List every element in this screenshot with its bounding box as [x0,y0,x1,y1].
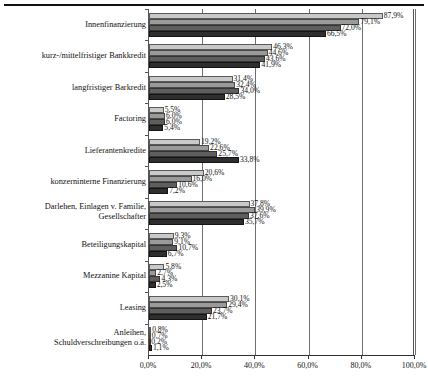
gridline [362,9,363,355]
y-axis-tick [145,261,149,262]
y-axis-tick [145,292,149,293]
y-axis-tick [145,229,149,230]
bar-value-label: 1,1% [153,344,169,352]
x-axis-tick [201,355,202,359]
x-axis-tick [308,355,309,359]
bar [149,314,207,320]
y-axis-tick [145,103,149,104]
bar [149,125,163,131]
bar-value-label: 2,5% [157,281,173,289]
category-label: Darlehen, Einlagen v. Familie, Gesellsch… [45,202,146,222]
x-axis-tick [254,355,255,359]
bar-value-label: 7,2% [169,187,185,195]
bar-value-label: 6,7% [168,250,184,258]
category-label: Leasing [120,303,146,313]
bar [149,62,260,68]
bar-value-label: 33,8% [240,156,260,164]
figure-top-rule [4,4,424,6]
x-axis-tick-label: 60,0% [297,361,318,370]
bar-chart: 0,0%20,0%40,0%60,0%80,0%100,0%Innenfinan… [0,0,428,382]
bar [149,251,167,257]
bar [149,219,244,225]
y-axis-tick [145,72,149,73]
bar [149,94,225,100]
bar [149,31,326,37]
x-axis-line [148,355,414,356]
bar-value-label: 5,4% [164,124,180,132]
bar [149,282,156,288]
bar-value-label: 87,9% [384,12,404,20]
y-axis-tick [145,198,149,199]
x-axis-tick-label: 20,0% [191,361,212,370]
y-axis-tick [145,40,149,41]
x-axis-tick-label: 80,0% [350,361,371,370]
bar-value-label: 21,7% [208,313,228,321]
y-axis-tick [145,166,149,167]
x-axis-tick [148,355,149,359]
category-label: Beteiligungskapital [81,240,146,250]
category-label: Innenfinanzierung [85,20,146,30]
category-label: Factoring [114,114,146,124]
x-axis-tick-label: 40,0% [244,361,265,370]
bar-value-label: 66,5% [327,30,347,38]
category-label: konzerninterne Finanzierung [50,177,146,187]
bar-value-label: 28,5% [226,93,246,101]
x-axis-tick [361,355,362,359]
x-axis-tick [414,355,415,359]
y-axis-tick [145,9,149,10]
x-axis-tick-label: 0,0% [140,361,157,370]
category-label: Lieferantenkredite [85,146,146,156]
gridline [415,9,416,355]
category-label: kurz-/mittelfristiger Bankkredit [42,51,146,61]
gridline [309,9,310,355]
bar-value-label: 79,1% [360,18,380,26]
category-label: Mezzanine Kapital [83,271,146,281]
bar [149,188,168,194]
category-label: langfristiger Barkredit [72,83,146,93]
category-label: Anleihen, Schuldverschreibungen o.ä. [54,328,146,348]
x-axis-tick-label: 100,0% [402,361,427,370]
bar-value-label: 35,7% [245,218,265,226]
bar-value-label: 41,9% [261,61,281,69]
bar-value-label: 25,7% [218,150,238,158]
y-axis-tick [145,135,149,136]
y-axis-tick [145,324,149,325]
